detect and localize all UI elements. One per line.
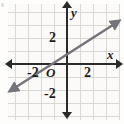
graph-line bbox=[8, 4, 120, 120]
x-axis-label: x bbox=[107, 48, 114, 61]
scan-artifact-speck bbox=[1, 3, 4, 7]
origin-label: O bbox=[46, 66, 55, 79]
x-tick-label-2: 2 bbox=[84, 66, 91, 80]
y-tick-label-neg2: -2 bbox=[44, 87, 56, 101]
y-axis-label: y bbox=[71, 6, 77, 19]
y-tick-label-2: 2 bbox=[49, 31, 56, 45]
coordinate-plane-figure: y x O 2 -2 2 -2 bbox=[0, 0, 124, 124]
plot-area: y x O 2 -2 2 -2 bbox=[8, 4, 120, 120]
x-tick-label-neg2: -2 bbox=[27, 66, 39, 80]
